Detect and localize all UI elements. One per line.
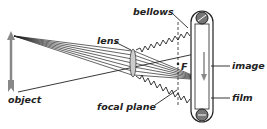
label-focal-plane: focal plane [97,101,156,112]
camera-diagram: bellows lens F image object focal plane … [0,0,267,129]
label-object: object [8,94,42,105]
label-film: film [232,92,253,103]
label-bellows: bellows [133,6,174,17]
focal-point [177,63,180,66]
lens [130,49,136,77]
film-holder [191,11,213,122]
label-lens: lens [97,35,119,46]
label-focal-point: F [181,61,188,72]
object-arrow [7,31,15,92]
label-image: image [232,60,265,71]
